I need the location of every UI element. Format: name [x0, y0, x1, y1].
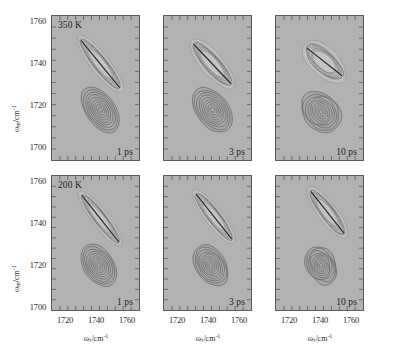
panel-waiting-time-label: 3 ps [229, 297, 245, 307]
y-tick-label-row1-1720: 1720 [12, 100, 46, 110]
y-tick-label-row2-1760: 1760 [12, 176, 46, 186]
panel-waiting-time-label: 10 ps [336, 297, 357, 307]
x-axis-title-col1: ωτ/cm-1 [51, 333, 141, 343]
y-axis-title-symbol: ω [12, 287, 21, 292]
figure-2d-ir-spectra: ωm/cm-1 ωm/cm-1 ωτ/cm-1 ωτ/cm-1 ωτ/cm-1 … [0, 0, 417, 351]
panel-waiting-time-label: 3 ps [229, 147, 245, 157]
x-axis-title-unit: /cm [91, 334, 103, 343]
x-tick-label-col1-1740: 1740 [81, 315, 111, 325]
y-tick-label-row1-1700: 1700 [12, 142, 46, 152]
y-axis-title-subscript: m [15, 282, 21, 286]
x-tick-label-col1-1760: 1760 [112, 315, 142, 325]
y-tick-label-row2-1740: 1740 [12, 218, 46, 228]
x-axis-title-col3: ωτ/cm-1 [275, 333, 365, 343]
contour-plot [276, 16, 363, 160]
contour-plot [276, 176, 363, 310]
x-axis-title-superscript: -1 [327, 333, 332, 339]
panel-temperature-label: 350 K [58, 20, 82, 30]
panel-200K-1ps[interactable]: 200 K 1 ps [51, 175, 140, 311]
panel-200K-3ps[interactable]: 3 ps [163, 175, 252, 311]
y-axis-title-subscript: m [15, 122, 21, 126]
y-axis-title-unit: /cm [12, 110, 21, 122]
panel-temperature-label: 200 K [58, 180, 82, 190]
x-axis-title-unit: /cm [203, 334, 215, 343]
contour-plot [52, 176, 139, 310]
panel-waiting-time-label: 10 ps [336, 147, 357, 157]
panel-350K-1ps[interactable]: 350 K 1 ps [51, 15, 140, 161]
panel-350K-10ps[interactable]: 10 ps [275, 15, 364, 161]
x-axis-title-superscript: -1 [103, 333, 108, 339]
contour-plot [52, 16, 139, 160]
panel-200K-10ps[interactable]: 10 ps [275, 175, 364, 311]
panel-350K-3ps[interactable]: 3 ps [163, 15, 252, 161]
panel-waiting-time-label: 1 ps [117, 147, 133, 157]
contour-plot [164, 16, 251, 160]
y-tick-label-row2-1700: 1700 [12, 302, 46, 312]
y-axis-title-symbol: ω [12, 127, 21, 132]
y-tick-label-row1-1760: 1760 [12, 16, 46, 26]
y-axis-title-unit: /cm [12, 270, 21, 282]
x-axis-title-unit: /cm [315, 334, 327, 343]
panel-waiting-time-label: 1 ps [117, 297, 133, 307]
x-tick-label-col3-1720: 1720 [274, 315, 304, 325]
y-tick-label-row1-1740: 1740 [12, 58, 46, 68]
x-tick-label-col1-1720: 1720 [50, 315, 80, 325]
x-tick-label-col3-1740: 1740 [305, 315, 335, 325]
x-tick-label-col2-1720: 1720 [162, 315, 192, 325]
contour-plot [164, 176, 251, 310]
x-axis-title-superscript: -1 [215, 333, 220, 339]
x-tick-label-col3-1760: 1760 [336, 315, 366, 325]
y-tick-label-row2-1720: 1720 [12, 260, 46, 270]
x-tick-label-col2-1760: 1760 [224, 315, 254, 325]
x-tick-label-col2-1740: 1740 [193, 315, 223, 325]
x-axis-title-col2: ωτ/cm-1 [163, 333, 253, 343]
